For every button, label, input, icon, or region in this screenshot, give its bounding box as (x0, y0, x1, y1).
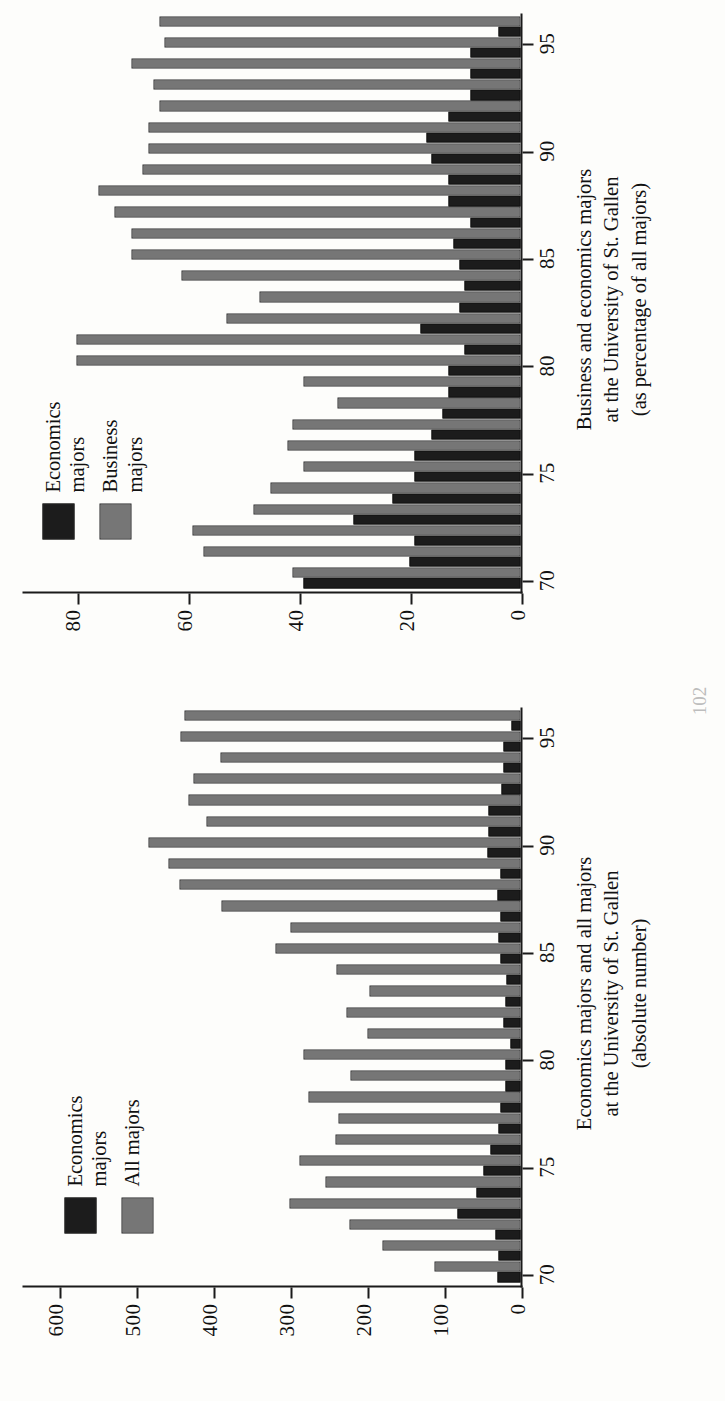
bar-economics-majors (464, 344, 520, 354)
bar-economics-majors (488, 826, 520, 836)
y-tick-label: 40 (285, 609, 306, 631)
y-tick-mark (213, 1287, 215, 1298)
y-tick-label: 80 (62, 609, 83, 631)
y-tick-mark (290, 1287, 292, 1298)
caption-absolute: Economics majors and all majorsat the Un… (570, 693, 652, 1293)
caption-line: at the University of St. Gallen (597, 0, 624, 599)
bar-business-majors (287, 440, 520, 450)
legend-swatch-dark (64, 1197, 96, 1233)
legend-swatch-light (99, 503, 131, 539)
bar-group (22, 333, 520, 354)
bar-all-majors (299, 1155, 520, 1165)
bar-economics-majors (464, 280, 520, 290)
x-tick-label: 70 (536, 558, 557, 602)
bar-group (22, 36, 520, 57)
legend-absolute: Economics majorsAll majors (62, 1095, 162, 1233)
bar-all-majors (338, 1113, 520, 1123)
bar-group (22, 985, 520, 1006)
bar-all-majors (290, 922, 520, 932)
bar-group (22, 1261, 520, 1282)
y-tick-label: 0 (507, 1303, 528, 1314)
bar-business-majors (203, 546, 520, 556)
bar-economics-majors (431, 429, 520, 439)
x-tick-85: 85 (522, 952, 533, 954)
bar-economics-majors (392, 493, 520, 503)
bar-all-majors (346, 1007, 520, 1017)
legend-item: Economics majors (62, 1095, 110, 1233)
bar-group (22, 943, 520, 964)
bar-all-majors (275, 943, 520, 953)
x-tick-label: 80 (536, 1037, 557, 1081)
bar-economics-majors (459, 259, 520, 269)
y-tick-label: 600 (45, 1303, 66, 1336)
bar-business-majors (76, 355, 520, 365)
bar-group (22, 249, 520, 270)
x-tick-85: 85 (522, 258, 533, 260)
bar-group (22, 794, 520, 815)
y-tick-label: 20 (396, 609, 417, 631)
bar-group (22, 567, 520, 588)
caption-line: Economics majors and all majors (570, 693, 597, 1293)
bar-business-majors (303, 376, 520, 386)
bar-group (22, 1027, 520, 1048)
legend-swatch-light (121, 1197, 153, 1233)
bar-all-majors (335, 1134, 520, 1144)
bar-economics-majors (506, 974, 520, 984)
bar-economics-majors (498, 932, 520, 942)
caption-line: Business and economics majors (570, 0, 597, 599)
bar-business-majors (270, 482, 520, 492)
bar-economics-majors (498, 26, 520, 36)
bar-all-majors (180, 731, 520, 741)
bar-all-majors (350, 1070, 520, 1080)
bar-economics-majors (503, 762, 520, 772)
bar-group (22, 100, 520, 121)
bar-all-majors (434, 1261, 520, 1271)
legend-label: Business majors (97, 419, 145, 492)
bar-all-majors (382, 1240, 520, 1250)
x-tick-label: 90 (536, 823, 557, 867)
legend-item: Economics majors (40, 401, 88, 539)
bar-group (22, 879, 520, 900)
x-tick-80: 80 (522, 1059, 533, 1061)
bar-group (22, 752, 520, 773)
legend-swatch-dark (42, 503, 74, 539)
bar-business-majors (292, 567, 520, 577)
y-axis-percentage: 020406080 (22, 593, 522, 689)
bar-business-majors (192, 525, 520, 535)
y-tick-label: 500 (122, 1303, 143, 1336)
bar-all-majors (367, 1028, 520, 1038)
bar-group (22, 312, 520, 333)
bar-business-majors (148, 143, 520, 153)
x-tick-label: 95 (536, 715, 557, 759)
bar-group (22, 355, 520, 376)
x-tick-95: 95 (522, 737, 533, 739)
bar-group (22, 15, 520, 36)
bar-economics-majors (476, 1187, 520, 1197)
bar-business-majors (76, 334, 520, 344)
bar-all-majors (289, 1198, 520, 1208)
bar-economics-majors (511, 720, 520, 730)
bar-all-majors (336, 964, 520, 974)
bar-group (22, 1240, 520, 1261)
bar-group (22, 1070, 520, 1091)
bar-all-majors (184, 710, 520, 720)
bar-business-majors (337, 397, 520, 407)
bar-economics-majors (500, 1102, 520, 1112)
bar-group (22, 206, 520, 227)
bar-economics-majors (497, 1271, 520, 1281)
bar-group (22, 815, 520, 836)
y-tick-label: 100 (430, 1303, 451, 1336)
x-tick-label: 75 (536, 1145, 557, 1189)
legend-percentage: Economics majorsBusiness majors (40, 401, 155, 539)
bar-group (22, 142, 520, 163)
bar-economics-majors (498, 1123, 520, 1133)
bar-economics-majors (448, 195, 520, 205)
bar-economics-majors (510, 1038, 520, 1048)
chart-business-and-economics-majors: 020406080 707580859095 Economics majorsB… (0, 0, 725, 689)
bar-economics-majors (414, 471, 520, 481)
bar-economics-majors (457, 1208, 520, 1218)
bar-group (22, 773, 520, 794)
bar-business-majors (131, 228, 520, 238)
x-axis-absolute: 707580859095 (522, 707, 566, 1287)
x-tick-75: 75 (522, 1167, 533, 1169)
